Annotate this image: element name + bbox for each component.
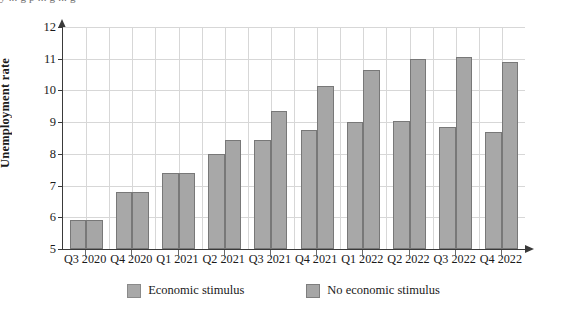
bar <box>363 70 380 249</box>
bar <box>86 220 103 249</box>
bar <box>162 173 179 249</box>
y-axis-tick-labels: 56789101112 <box>20 27 56 249</box>
legend-swatch <box>306 284 320 298</box>
y-axis-title: Unemployment rate <box>0 58 13 168</box>
y-axis-tick-label: 9 <box>50 115 56 130</box>
bar <box>393 121 410 249</box>
bar <box>502 62 519 249</box>
x-axis-tick <box>316 250 317 257</box>
y-axis-tick-label: 7 <box>50 178 56 193</box>
x-axis-tick <box>409 250 410 257</box>
bar <box>317 86 334 249</box>
plot-area <box>62 27 525 250</box>
legend-label: No economic stimulus <box>327 283 440 298</box>
y-axis-tick-label: 8 <box>50 146 56 161</box>
legend-item: Economic stimulus <box>127 283 244 298</box>
bar <box>254 140 271 249</box>
y-axis-tick <box>58 249 63 250</box>
x-axis-arrow-icon <box>525 245 534 253</box>
y-axis-tick-label: 10 <box>44 83 57 98</box>
bar <box>485 132 502 249</box>
x-axis-tick <box>501 250 502 257</box>
bar <box>179 173 196 249</box>
x-axis-tick <box>270 250 271 257</box>
y-axis-tick-label: 5 <box>50 242 56 257</box>
legend-swatch <box>127 284 141 298</box>
legend-item: No economic stimulus <box>306 283 440 298</box>
unemployment-rate-bar-chart: y ... g p ... g ... g Unemployment rate … <box>0 0 567 309</box>
cropped-header-text-content: y ... g p ... g ... g <box>0 0 567 3</box>
bar <box>271 111 288 249</box>
bar <box>70 220 87 249</box>
bar <box>132 192 149 249</box>
bar <box>456 57 473 249</box>
bars-layer <box>63 27 525 249</box>
bar <box>301 130 318 249</box>
x-axis-tick <box>85 250 86 257</box>
bar <box>410 59 427 249</box>
bar <box>208 154 225 249</box>
x-axis-tick <box>224 250 225 257</box>
y-axis-tick-label: 11 <box>44 51 56 66</box>
legend-label: Economic stimulus <box>148 283 244 298</box>
x-axis-tick <box>131 250 132 257</box>
bar <box>225 140 242 249</box>
x-axis-tick <box>178 250 179 257</box>
bar <box>116 192 133 249</box>
bar <box>347 122 364 249</box>
cropped-header-text: y ... g p ... g ... g <box>0 0 567 9</box>
y-axis-tick-label: 6 <box>50 210 56 225</box>
x-axis-tick <box>362 250 363 257</box>
x-axis-tick <box>455 250 456 257</box>
bar <box>439 127 456 249</box>
chart-legend: Economic stimulusNo economic stimulus <box>0 283 567 298</box>
y-axis-tick-label: 12 <box>44 20 57 35</box>
